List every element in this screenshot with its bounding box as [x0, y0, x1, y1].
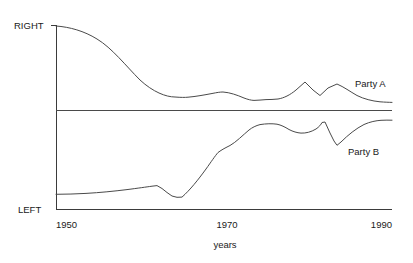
- series-line-party-a: [56, 26, 392, 102]
- series-label-party-a: Party A: [355, 78, 386, 89]
- x-tick-label-1970: 1970: [216, 219, 237, 230]
- x-tick-label-1990: 1990: [371, 219, 392, 230]
- series-label-party-b: Party B: [348, 146, 379, 157]
- chart-container: RIGHT LEFT 1950 1970 1990 years Party A …: [0, 0, 413, 263]
- x-axis-title: years: [213, 239, 236, 250]
- y-axis-label-left: LEFT: [18, 204, 41, 215]
- series-line-party-b: [56, 120, 392, 197]
- y-axis-label-right: RIGHT: [14, 20, 44, 31]
- line-chart: RIGHT LEFT 1950 1970 1990 years Party A …: [0, 0, 413, 263]
- x-tick-label-1950: 1950: [56, 219, 77, 230]
